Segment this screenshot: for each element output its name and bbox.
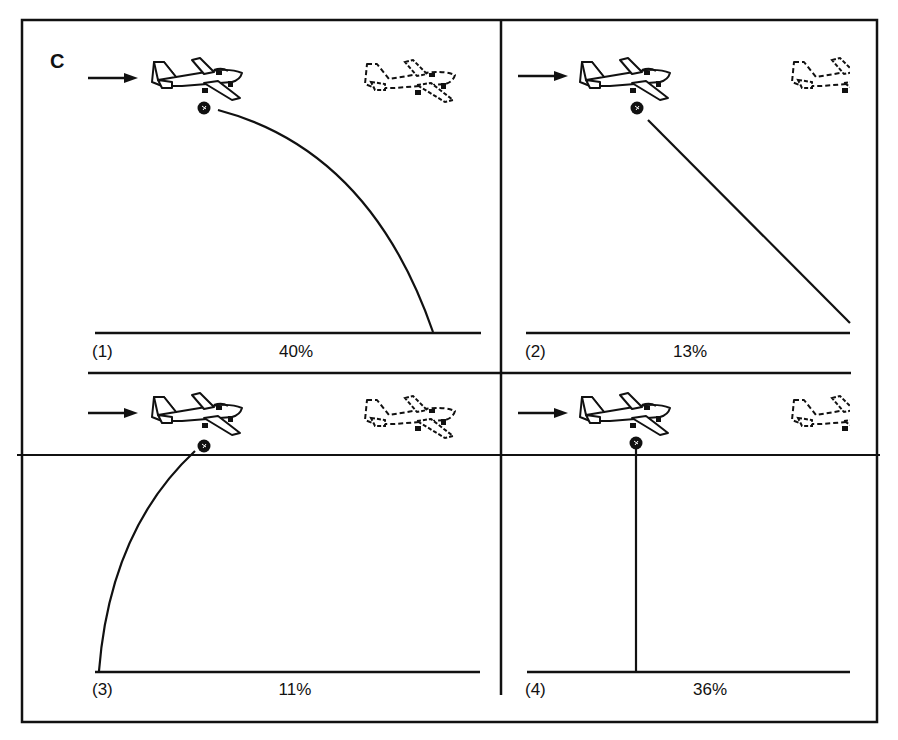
trajectory-path bbox=[218, 110, 433, 332]
panel-3-percent: 11% bbox=[279, 681, 312, 698]
panel-4 bbox=[518, 393, 882, 672]
arrow-right-icon bbox=[88, 73, 138, 83]
airplane-dashed-icon bbox=[365, 60, 455, 102]
ball-icon bbox=[630, 437, 643, 450]
arrow-right-icon bbox=[518, 71, 568, 81]
panel-2-percent: 13% bbox=[673, 343, 707, 360]
airplane-icon bbox=[152, 58, 242, 100]
trajectory-path bbox=[648, 120, 850, 323]
airplane-icon bbox=[580, 393, 670, 435]
trajectory-path bbox=[99, 451, 195, 671]
panel-3 bbox=[88, 393, 480, 672]
panel-4-percent: 36% bbox=[693, 681, 727, 698]
diagram-canvas bbox=[0, 0, 898, 740]
panel-1-label: (1) bbox=[92, 343, 113, 360]
ball-icon bbox=[198, 102, 211, 115]
panel-2-label: (2) bbox=[525, 343, 546, 360]
ball-icon bbox=[631, 102, 644, 115]
arrow-right-icon bbox=[518, 408, 568, 418]
airplane-dashed-icon bbox=[792, 396, 882, 438]
panel-2 bbox=[518, 58, 882, 333]
airplane-dashed-icon bbox=[792, 58, 882, 100]
airplane-dashed-icon bbox=[365, 396, 455, 438]
outer-frame bbox=[22, 20, 877, 722]
ball-icon bbox=[198, 440, 211, 453]
figure-letter: C bbox=[50, 50, 64, 73]
arrow-right-icon bbox=[88, 408, 138, 418]
airplane-icon bbox=[580, 58, 670, 100]
panel-1-percent: 40% bbox=[279, 343, 313, 360]
panel-1 bbox=[88, 58, 481, 333]
panel-4-label: (4) bbox=[525, 681, 546, 698]
airplane-icon bbox=[152, 393, 242, 435]
figure-c: C (1) 40% (2) 13% (3) 11% (4) 36% bbox=[0, 0, 898, 740]
panel-3-label: (3) bbox=[92, 681, 113, 698]
